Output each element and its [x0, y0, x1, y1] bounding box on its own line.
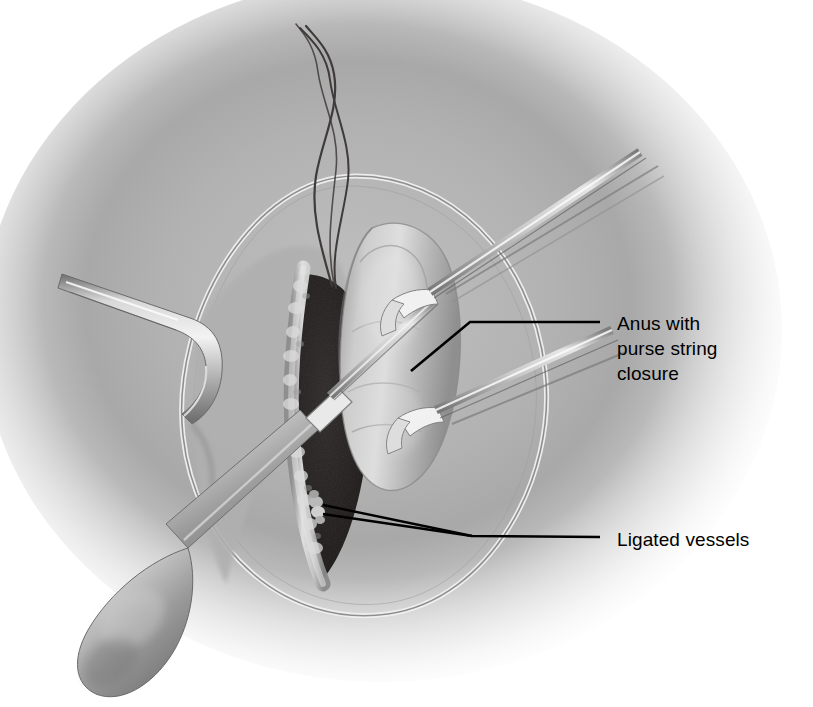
label-ligated-vessels: Ligated vessels: [617, 527, 749, 552]
illustration-canvas: Anus with purse string closure Ligated v…: [0, 0, 813, 707]
label-anus-with-purse-string-closure: Anus with purse string closure: [617, 311, 717, 386]
